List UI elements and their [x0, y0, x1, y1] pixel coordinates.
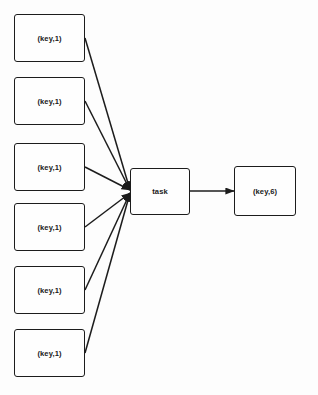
input-node-1-label: (key,1) [37, 34, 61, 43]
input-node-4-label: (key,1) [37, 223, 61, 232]
output-node[interactable]: (key,6) [234, 166, 296, 216]
input-node-5[interactable]: (key,1) [14, 266, 85, 314]
input-node-2-label: (key,1) [37, 97, 61, 106]
task-node[interactable]: task [130, 168, 190, 215]
input-node-1[interactable]: (key,1) [14, 14, 85, 62]
edge-in3-to-task [85, 167, 130, 190]
edge-in4-to-task [85, 193, 130, 227]
input-node-6[interactable]: (key,1) [14, 329, 85, 377]
edge-in2-to-task [85, 101, 130, 190]
input-node-5-label: (key,1) [37, 286, 61, 295]
output-node-label: (key,6) [253, 187, 277, 196]
edge-in1-to-task [85, 38, 130, 190]
edge-in5-to-task [85, 193, 130, 290]
diagram-canvas: (key,1) (key,1) (key,1) (key,1) (key,1) … [0, 0, 318, 395]
input-node-3[interactable]: (key,1) [14, 143, 85, 191]
input-node-2[interactable]: (key,1) [14, 77, 85, 125]
input-node-6-label: (key,1) [37, 349, 61, 358]
input-node-4[interactable]: (key,1) [14, 203, 85, 251]
input-node-3-label: (key,1) [37, 163, 61, 172]
task-node-label: task [152, 187, 168, 196]
edge-in6-to-task [85, 193, 130, 353]
